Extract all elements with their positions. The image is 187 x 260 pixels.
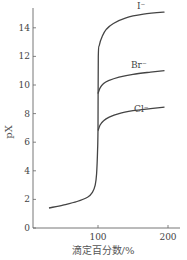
curve-br <box>98 71 165 94</box>
curve-label-chloride: Cl⁻ <box>134 104 149 114</box>
y-tick-label: 8 <box>24 109 30 119</box>
y-tick-label: 0 <box>24 223 30 233</box>
curve-label-bromide: Br⁻ <box>131 60 147 70</box>
x-tick-label: 200 <box>159 232 176 242</box>
y-axis-title: pX <box>3 124 14 138</box>
curve-common <box>49 131 98 208</box>
y-tick-label: 10 <box>19 80 31 90</box>
y-tick-label: 12 <box>19 51 30 61</box>
y-tick-label: 14 <box>19 23 31 33</box>
x-tick-label: 100 <box>89 232 106 242</box>
y-tick-label: 6 <box>24 137 30 147</box>
titration-chart: 02468101214 100200 I⁻ Br⁻ Cl⁻ pX 滴定百分数/% <box>0 0 187 260</box>
y-tick-label: 4 <box>24 166 30 176</box>
x-axis-title: 滴定百分数/% <box>72 244 135 256</box>
y-tick-label: 2 <box>24 194 30 204</box>
curve-cl <box>98 107 165 131</box>
curve-label-iodide: I⁻ <box>137 1 146 11</box>
